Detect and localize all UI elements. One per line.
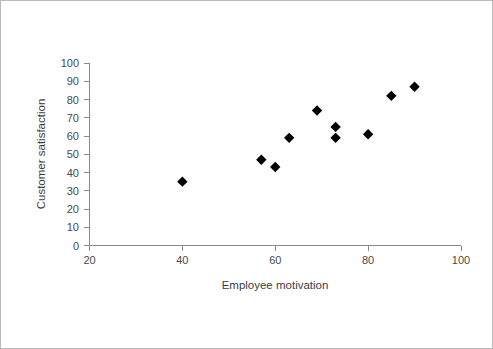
y-tick-label: 20	[67, 203, 79, 215]
x-tick-label: 40	[176, 254, 188, 266]
y-tick-label: 30	[67, 185, 79, 197]
y-axis-ticks	[84, 63, 90, 246]
y-tick-label: 40	[67, 167, 79, 179]
data-point-marker	[284, 133, 294, 143]
data-point-marker	[256, 155, 266, 165]
x-axis-title: Employee motivation	[222, 279, 329, 291]
x-axis-ticks	[90, 246, 462, 252]
plot-svg: 0102030405060708090100 20406080100 Emplo…	[1, 1, 493, 349]
scatter-chart-figure: 0102030405060708090100 20406080100 Emplo…	[0, 0, 493, 349]
data-point-marker	[330, 133, 340, 143]
x-axis-tick-labels: 20406080100	[83, 254, 470, 266]
data-point-marker	[330, 122, 340, 132]
y-tick-label: 0	[73, 240, 79, 252]
x-tick-label: 100	[452, 254, 470, 266]
x-tick-label: 20	[83, 254, 95, 266]
data-point-series	[177, 82, 420, 187]
data-point-marker	[270, 162, 280, 172]
data-point-marker	[386, 91, 396, 101]
y-axis: 0102030405060708090100	[61, 57, 90, 252]
data-point-marker	[177, 176, 187, 186]
y-tick-label: 80	[67, 94, 79, 106]
y-tick-label: 70	[67, 112, 79, 124]
y-tick-label: 90	[67, 75, 79, 87]
y-tick-label: 50	[67, 148, 79, 160]
y-tick-label: 100	[61, 57, 79, 69]
x-tick-label: 60	[269, 254, 281, 266]
y-tick-label: 60	[67, 130, 79, 142]
y-tick-label: 10	[67, 221, 79, 233]
y-axis-tick-labels: 0102030405060708090100	[61, 57, 79, 252]
data-point-marker	[312, 105, 322, 115]
x-axis: 20406080100	[83, 246, 470, 267]
x-tick-label: 80	[362, 254, 374, 266]
y-axis-title: Customer satisfaction	[35, 99, 47, 210]
data-point-marker	[409, 82, 419, 92]
data-point-marker	[363, 129, 373, 139]
